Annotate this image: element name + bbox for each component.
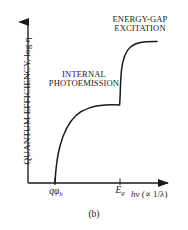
x-tick-label-phib: qφb <box>42 186 70 197</box>
x-tick-label-eg: Eg <box>108 185 132 196</box>
y-axis-title: QUANTUM EFFICIENCY, log η <box>23 21 33 181</box>
x-tick-label-phib-subscript: b <box>59 190 62 197</box>
quantum-efficiency-curve <box>55 42 157 183</box>
x-tick-label-eg-subscript: g <box>121 189 124 196</box>
x-axis-title-relation: (∝ 1/λ) <box>142 189 168 199</box>
annotation-energygap-line2: EXCITATION <box>114 23 165 33</box>
x-axis-title-symbol: hv <box>131 189 140 199</box>
figure-quantum-efficiency: QUANTUM EFFICIENCY, log η INTERNAL PHOTO… <box>0 0 188 230</box>
x-tick-label-phib-symbol: qφ <box>49 186 59 196</box>
annotation-energy-gap-excitation: ENERGY-GAP EXCITATION <box>96 15 184 33</box>
annotation-internal-photoemission: INTERNAL PHOTOEMISSION <box>38 70 130 88</box>
x-axis-title: hv (∝ 1/λ) <box>131 190 167 200</box>
figure-caption: (b) <box>0 209 188 219</box>
annotation-internal-line2: PHOTOEMISSION <box>49 78 119 88</box>
